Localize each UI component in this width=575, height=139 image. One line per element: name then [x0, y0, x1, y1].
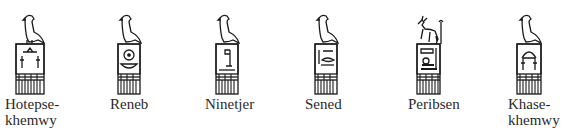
serekh-ninetjer-icon [205, 12, 275, 96]
serekh-peribsen-icon [408, 12, 478, 96]
serekh-sened: Sened [305, 0, 375, 139]
serekh-hotepsekhemwy: Hotepse- khemwy [5, 0, 75, 139]
serekh-khasekhemwy: Khase- khemwy [508, 0, 575, 139]
king-name-label: Reneb [110, 96, 148, 112]
king-name-label: Ninetjer [205, 96, 254, 112]
serekh-reneb-icon [110, 12, 180, 96]
serekh-khasekhemwy-icon [508, 12, 575, 96]
king-name-label: Khase- khemwy [508, 96, 560, 128]
serekh-peribsen: Peribsen [408, 0, 478, 139]
king-name-label: Hotepse- khemwy [5, 96, 59, 128]
serekh-reneb: Reneb [110, 0, 180, 139]
king-name-label: Sened [305, 96, 342, 112]
serekh-ninetjer: Ninetjer [205, 0, 275, 139]
serekh-sened-icon [305, 12, 375, 96]
king-name-label: Peribsen [408, 96, 460, 112]
serekh-hotepsekhemwy-icon [5, 12, 75, 96]
